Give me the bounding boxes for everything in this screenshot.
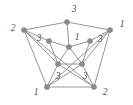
- graph-edge-o-right-i-bright: [82, 30, 110, 64]
- graph-edge-i-top-i-bleft: [58, 47, 69, 64]
- graph-edge-i-right-i-bright: [82, 41, 90, 64]
- graph-vertex-o-right: [107, 27, 112, 32]
- vertex-layer: [21, 19, 112, 89]
- edge-layer: [24, 22, 110, 87]
- graph-vertex-o-left: [21, 27, 26, 32]
- vertex-label-i-bleft: 3: [55, 71, 61, 81]
- graph-figure: 3211213333: [0, 0, 133, 105]
- vertex-label-i-bright: 3: [82, 71, 88, 81]
- graph-vertex-i-right: [87, 38, 92, 43]
- graph-edge-i-top-i-right: [69, 41, 90, 47]
- graph-edge-o-top-o-left: [24, 22, 67, 30]
- vertex-label-i-left: 3: [36, 33, 42, 43]
- graph-edge-o-top-o-right: [67, 22, 110, 30]
- graph-edge-i-left-i-bleft: [49, 41, 58, 64]
- graph-vertex-i-left: [46, 38, 51, 43]
- vertex-label-o-bright: 2: [103, 87, 108, 97]
- vertex-label-i-right: 3: [97, 34, 103, 44]
- vertex-label-layer: 3211213333: [11, 4, 125, 97]
- graph-vertex-o-bright: [91, 84, 96, 89]
- vertex-label-i-top: 1: [75, 32, 80, 42]
- graph-vertex-i-bright: [79, 61, 84, 66]
- vertex-label-o-right: 1: [120, 19, 125, 29]
- graph-vertex-i-bleft: [55, 61, 60, 66]
- graph-vertex-o-top: [64, 19, 69, 24]
- graph-vertex-o-bleft: [44, 84, 49, 89]
- graph-edge-i-left-i-top: [49, 41, 69, 47]
- graph-vertex-i-top: [66, 44, 71, 49]
- vertex-label-o-bleft: 1: [34, 87, 39, 97]
- vertex-label-o-left: 2: [11, 23, 16, 33]
- graph-edge-o-top-i-top: [67, 22, 69, 47]
- graph-canvas: 3211213333: [0, 0, 133, 105]
- vertex-label-o-top: 3: [71, 4, 77, 14]
